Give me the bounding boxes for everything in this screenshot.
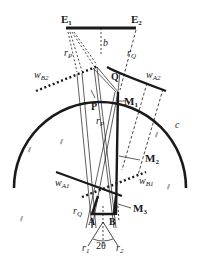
label-rq-bot: rQ (73, 205, 82, 218)
label-b: b (103, 37, 108, 48)
label-b-point: B (109, 216, 116, 227)
pointer-m3 (118, 204, 131, 208)
pointer-m2 (119, 156, 140, 160)
parallel-mark-3: ⫽ (19, 215, 24, 223)
parallel-mark-1: ⫽ (27, 146, 32, 154)
optics-diagram: E1 E2 b rP rQ wB2 wA2 Q M1 P rP c M2 wA1… (0, 0, 198, 264)
label-wb2: wB2 (34, 69, 49, 82)
pointer-p (91, 90, 95, 98)
label-angle-2theta: 2θ (96, 240, 106, 251)
label-c: c (175, 119, 180, 130)
label-r2: r2 (116, 242, 124, 255)
label-r1: r1 (82, 242, 89, 255)
label-p: P (91, 101, 97, 112)
label-a: A (88, 216, 96, 227)
label-wb1: wB1 (139, 175, 153, 188)
label-wa1: wA1 (55, 177, 69, 190)
ray-rq-top (120, 30, 136, 90)
ray-bundle (77, 67, 120, 228)
label-m1: M1 (124, 95, 138, 109)
base-right-dash (118, 206, 119, 222)
label-e1: E1 (61, 13, 72, 27)
parallel-mark-5: ⫽ (166, 183, 171, 191)
label-e2: E2 (131, 13, 142, 27)
label-q: Q (111, 71, 119, 82)
parallel-mark-2: ⫽ (59, 138, 64, 146)
ray-rp-dashed-4 (74, 32, 97, 65)
label-m2: M2 (145, 152, 159, 166)
label-rq-top: rQ (127, 47, 136, 60)
label-wa2: wA2 (146, 69, 161, 82)
parallel-mark-4: ⫽ (154, 131, 159, 139)
label-m3: M3 (133, 202, 147, 216)
